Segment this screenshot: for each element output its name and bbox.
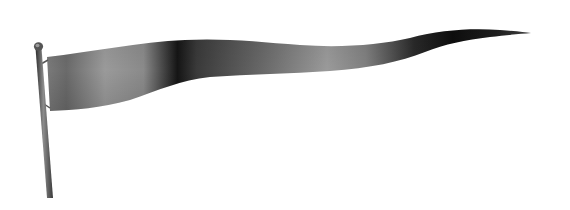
pennant-scene [0, 0, 570, 210]
flag-shading [47, 29, 531, 111]
pennant-flag-illustration [0, 0, 570, 210]
finial-highlight [36, 44, 40, 48]
flag [47, 29, 531, 111]
